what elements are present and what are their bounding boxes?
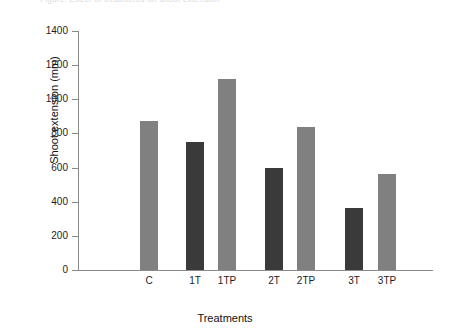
- y-axis-line: [78, 31, 79, 271]
- bar-2tp: [297, 127, 315, 270]
- y-axis-tick-label: 0: [20, 265, 68, 275]
- x-tick-label-c: C: [124, 275, 174, 286]
- bar-chart-figure: Shoot extension (mm) Treatments 02004006…: [0, 0, 450, 334]
- bar-1t: [186, 142, 204, 270]
- y-axis-tick: [72, 99, 78, 100]
- y-axis-tick-label: 800: [20, 128, 68, 138]
- y-axis-tick: [72, 168, 78, 169]
- y-axis-tick: [72, 133, 78, 134]
- y-axis-tick: [72, 202, 78, 203]
- y-axis-tick-label: 1400: [20, 26, 68, 36]
- x-tick-label-3tp: 3TP: [362, 275, 412, 286]
- y-axis-tick: [72, 236, 78, 237]
- bar-3t: [345, 208, 363, 270]
- x-tick-label-1tp: 1TP: [202, 275, 252, 286]
- y-axis-tick-label: 400: [20, 197, 68, 207]
- y-axis-tick: [72, 31, 78, 32]
- bar-2t: [265, 168, 283, 270]
- y-axis-tick: [72, 65, 78, 66]
- y-axis-tick: [72, 270, 78, 271]
- y-axis-tick-label: 1200: [20, 60, 68, 70]
- x-tick-label-2tp: 2TP: [281, 275, 331, 286]
- bar-3tp: [378, 174, 396, 270]
- x-axis-line: [78, 270, 433, 271]
- y-axis-tick-label: 200: [20, 231, 68, 241]
- bar-1tp: [218, 79, 236, 270]
- y-axis-tick-label: 600: [20, 163, 68, 173]
- y-axis-tick-label: 1000: [20, 94, 68, 104]
- x-axis-title: Treatments: [0, 312, 450, 324]
- bar-c: [140, 121, 158, 270]
